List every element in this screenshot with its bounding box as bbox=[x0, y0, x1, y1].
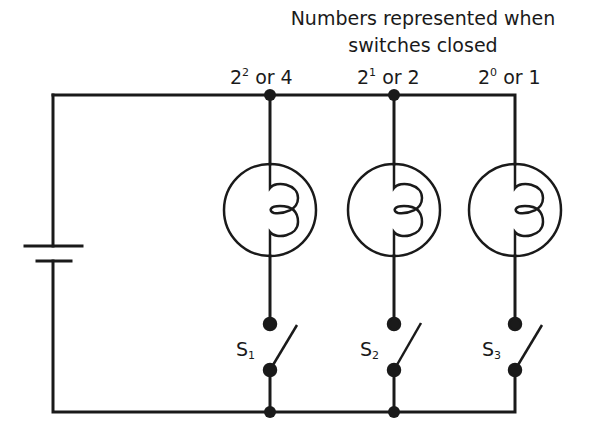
junction-dot bbox=[264, 406, 276, 418]
open-switch-icon bbox=[264, 318, 297, 376]
switch-label-1: S1 bbox=[236, 338, 255, 362]
open-switch-icon bbox=[509, 318, 542, 376]
left-wire-bottom bbox=[53, 261, 515, 412]
switch-label-2: S2 bbox=[360, 338, 379, 362]
top-wire bbox=[53, 95, 515, 164]
bulb-icon bbox=[348, 164, 440, 256]
junction-dot bbox=[264, 89, 276, 101]
battery-icon bbox=[25, 246, 82, 261]
switch-label-3: S3 bbox=[482, 338, 501, 362]
bulb-icon bbox=[224, 164, 316, 256]
circuit-diagram bbox=[0, 0, 596, 430]
junction-dot bbox=[388, 89, 400, 101]
bulb-icon bbox=[469, 164, 561, 256]
junction-dot bbox=[388, 406, 400, 418]
open-switch-icon bbox=[388, 318, 421, 376]
